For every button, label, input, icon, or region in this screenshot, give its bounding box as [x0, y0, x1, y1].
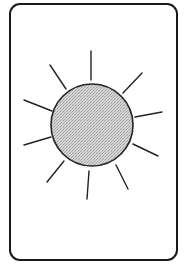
- sun-disc: [51, 84, 133, 166]
- sun-ray: [47, 161, 64, 182]
- sun-ray: [24, 100, 52, 111]
- sun-icon: [0, 0, 184, 271]
- sun-ray: [123, 73, 142, 93]
- sun-ray: [135, 112, 162, 117]
- sun-ray: [116, 165, 128, 189]
- sun-ray: [87, 171, 89, 199]
- sun-ray: [50, 65, 66, 89]
- sun-ray: [133, 144, 158, 156]
- sun-ray: [24, 137, 51, 145]
